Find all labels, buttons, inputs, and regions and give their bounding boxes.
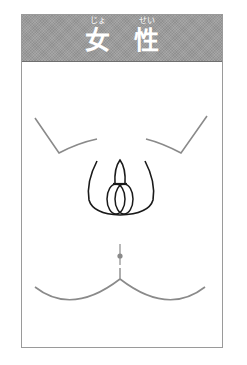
navel-dot xyxy=(117,253,122,258)
right-labia xyxy=(115,184,133,214)
right-thigh-curve xyxy=(120,161,154,215)
right-chest-curve xyxy=(120,279,205,300)
left-labia xyxy=(107,184,125,214)
left-chest-curve xyxy=(35,279,120,300)
right-hip-line xyxy=(146,116,207,153)
body-illustration xyxy=(0,0,247,365)
clitoral-hood xyxy=(115,160,125,184)
left-hip-line xyxy=(35,118,97,153)
